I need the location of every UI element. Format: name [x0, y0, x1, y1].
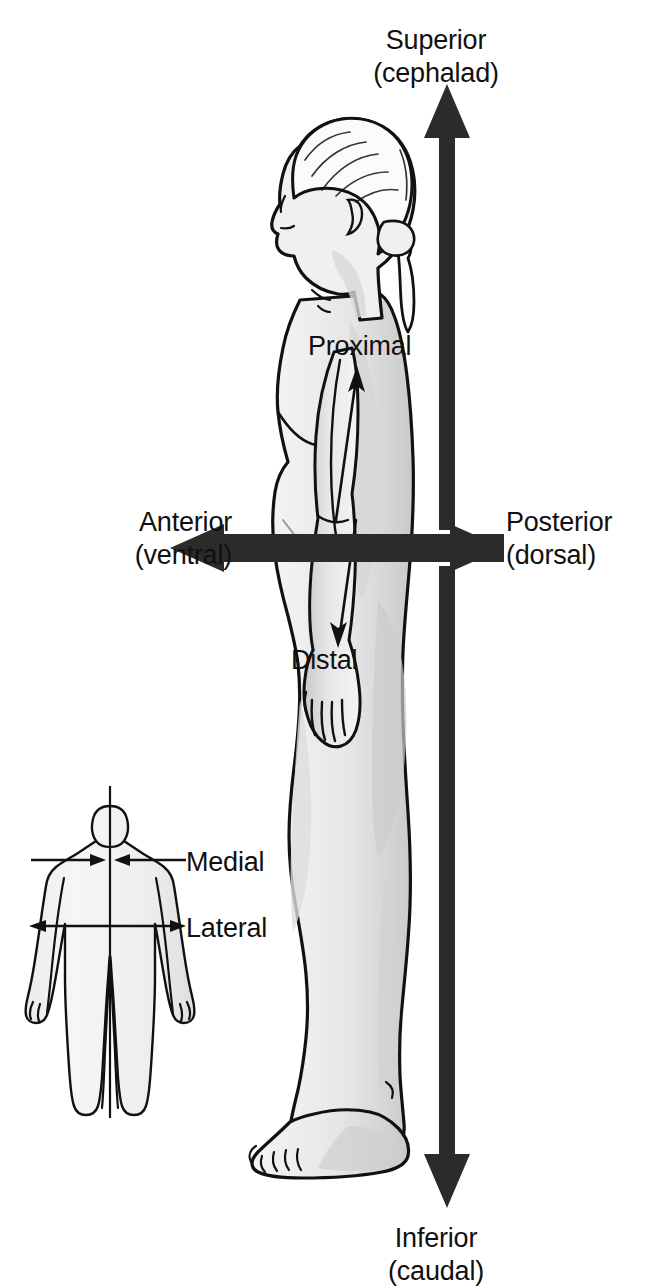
label-distal-primary: Distal [291, 645, 357, 675]
label-medial-primary: Medial [186, 847, 264, 877]
label-posterior-primary: Posterior [506, 507, 612, 537]
label-lateral-primary: Lateral [186, 913, 267, 943]
vertical-shaft-upper [439, 138, 455, 530]
inset-body-figure [26, 786, 195, 1118]
label-proximal-primary: Proximal [308, 331, 411, 361]
anatomical-directions-figure: Superior (cephalad) Inferior (caudal) An… [0, 0, 647, 1288]
label-medial: Medial [186, 846, 264, 879]
label-inferior-secondary: (caudal) [388, 1255, 484, 1288]
label-posterior: Posterior (dorsal) [506, 506, 612, 572]
label-lateral: Lateral [186, 912, 267, 945]
label-anterior: Anterior (ventral) [135, 506, 232, 572]
label-proximal: Proximal [308, 330, 411, 363]
label-anterior-primary: Anterior [139, 507, 232, 537]
vertical-axis-arrow [424, 84, 470, 1208]
label-distal: Distal [291, 644, 357, 677]
label-inferior-primary: Inferior [395, 1223, 477, 1253]
label-posterior-secondary: (dorsal) [506, 539, 612, 572]
label-inferior: Inferior (caudal) [388, 1222, 484, 1288]
lateral-left-arrowhead [29, 920, 46, 932]
ponytail-band [378, 221, 414, 256]
label-anterior-secondary: (ventral) [135, 539, 232, 572]
label-superior: Superior (cephalad) [373, 24, 499, 90]
label-superior-secondary: (cephalad) [373, 57, 499, 90]
label-superior-primary: Superior [386, 25, 486, 55]
inferior-arrowhead [424, 566, 470, 1208]
